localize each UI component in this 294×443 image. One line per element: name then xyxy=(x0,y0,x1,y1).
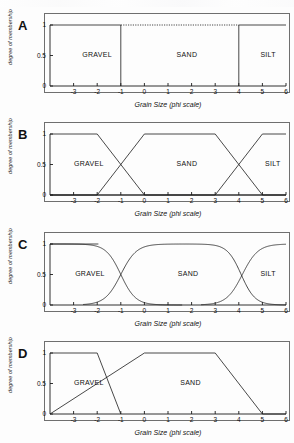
x-tick-label: 6 xyxy=(279,416,293,423)
x-tick-label: 5 xyxy=(255,197,269,204)
region-label-gravel: GRAVEL xyxy=(82,51,112,58)
region-label-sand: SAND xyxy=(178,270,199,277)
x-tick-label: -3 xyxy=(67,307,81,314)
x-tick-label: 4 xyxy=(232,88,246,95)
x-tick-label: -1 xyxy=(114,416,128,423)
x-tick-label: 1 xyxy=(161,416,175,423)
y-tick-label: 1 xyxy=(32,349,46,356)
x-tick-label: 5 xyxy=(255,416,269,423)
x-tick-label: 1 xyxy=(161,197,175,204)
x-tick-label: -3 xyxy=(67,416,81,423)
region-label-sand: SAND xyxy=(180,379,201,386)
x-tick-label: -3 xyxy=(67,197,81,204)
x-tick-label: -1 xyxy=(114,307,128,314)
x-tick-label: 3 xyxy=(208,307,222,314)
x-tick-label: 6 xyxy=(279,307,293,314)
x-tick-label: -2 xyxy=(90,88,104,95)
y-tick-label: 0 xyxy=(32,82,46,89)
figure-fuzzy-membership: A degree of membership Grain Size (phi s… xyxy=(0,0,294,443)
panel-a: A degree of membership Grain Size (phi s… xyxy=(0,4,294,114)
x-tick-label: 5 xyxy=(255,88,269,95)
y-tick-label: 0.5 xyxy=(32,161,46,168)
x-tick-label: 0 xyxy=(137,307,151,314)
region-label-gravel: GRAVEL xyxy=(74,160,104,167)
x-tick-label: -3 xyxy=(67,88,81,95)
region-label-silt: SILT xyxy=(260,270,275,277)
x-tick-label: 2 xyxy=(185,88,199,95)
x-tick-label: 6 xyxy=(279,197,293,204)
y-tick-label: 0.5 xyxy=(32,271,46,278)
y-tick-label: 0 xyxy=(32,410,46,417)
x-tick-label: 3 xyxy=(208,416,222,423)
x-tick-label: 1 xyxy=(161,88,175,95)
y-tick-label: 1 xyxy=(32,130,46,137)
y-tick-label: 0.5 xyxy=(32,52,46,59)
x-tick-label: 0 xyxy=(137,416,151,423)
y-tick-label: 0.5 xyxy=(32,380,46,387)
x-tick-label: 4 xyxy=(232,307,246,314)
x-tick-label: -2 xyxy=(90,197,104,204)
x-tick-label: -2 xyxy=(90,307,104,314)
x-tick-label: -1 xyxy=(114,197,128,204)
y-tick-label: 1 xyxy=(32,21,46,28)
region-label-silt: SILT xyxy=(265,160,280,167)
region-label-sand: SAND xyxy=(177,160,198,167)
x-tick-label: 4 xyxy=(232,416,246,423)
panel-b: B degree of membership Grain Size (phi s… xyxy=(0,113,294,223)
panel-d: D degree of membership Grain Size (phi s… xyxy=(0,332,294,442)
y-tick-label: 1 xyxy=(32,240,46,247)
panel-c: C degree of membership Grain Size (phi s… xyxy=(0,223,294,333)
region-label-silt: SILT xyxy=(260,51,275,58)
x-tick-label: 6 xyxy=(279,88,293,95)
region-label-gravel: GRAVEL xyxy=(74,379,104,386)
x-tick-label: 3 xyxy=(208,88,222,95)
x-tick-label: 5 xyxy=(255,307,269,314)
y-tick-label: 0 xyxy=(32,191,46,198)
y-tick-label: 0 xyxy=(32,301,46,308)
x-tick-label: -1 xyxy=(114,88,128,95)
x-tick-label: 2 xyxy=(185,197,199,204)
gravel-curve xyxy=(50,244,182,305)
x-tick-label: -2 xyxy=(90,416,104,423)
x-tick-label: 0 xyxy=(137,88,151,95)
region-label-sand: SAND xyxy=(177,51,198,58)
x-tick-label: 0 xyxy=(137,197,151,204)
x-tick-label: 1 xyxy=(161,307,175,314)
region-label-gravel: GRAVEL xyxy=(75,270,105,277)
x-tick-label: 3 xyxy=(208,197,222,204)
x-tick-label: 2 xyxy=(185,416,199,423)
x-tick-label: 4 xyxy=(232,197,246,204)
x-tick-label: 2 xyxy=(185,307,199,314)
